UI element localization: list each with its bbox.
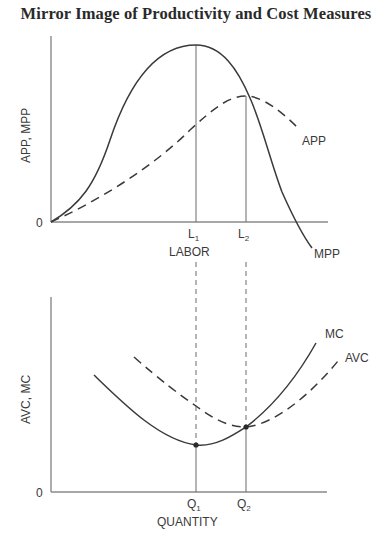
bottom-y-axis-label: AVC, MC — [19, 375, 33, 424]
mpp-label: MPP — [314, 247, 340, 261]
mpp-curve — [51, 45, 312, 248]
bottom-chart: 0 AVC, MC Q1 Q2 QUANTITY MC AVC — [19, 297, 369, 529]
tick-l1: L1 — [188, 227, 200, 243]
app-curve — [51, 96, 298, 222]
avc-label: AVC — [345, 351, 369, 365]
bottom-x-axis-label: QUANTITY — [157, 515, 218, 529]
tick-q1: Q1 — [187, 497, 201, 513]
tick-l2: L2 — [238, 227, 250, 243]
top-x-axis-label: LABOR — [169, 245, 210, 259]
top-chart: 0 APP, MPP L1 L2 LABOR APP MPP — [19, 36, 340, 261]
mc-label: MC — [325, 327, 344, 341]
mc-curve — [94, 343, 316, 445]
diagram-canvas: 0 APP, MPP L1 L2 LABOR APP MPP 0 AVC, MC… — [0, 0, 392, 549]
bottom-origin-label: 0 — [36, 486, 43, 500]
mc-minimum-dot — [193, 442, 198, 447]
app-label: APP — [302, 134, 326, 148]
tick-q2: Q2 — [237, 497, 251, 513]
mc-avc-intersection-dot — [243, 424, 248, 429]
top-y-axis-label: APP, MPP — [19, 108, 33, 163]
avc-curve — [134, 357, 338, 427]
top-origin-label: 0 — [36, 216, 43, 230]
